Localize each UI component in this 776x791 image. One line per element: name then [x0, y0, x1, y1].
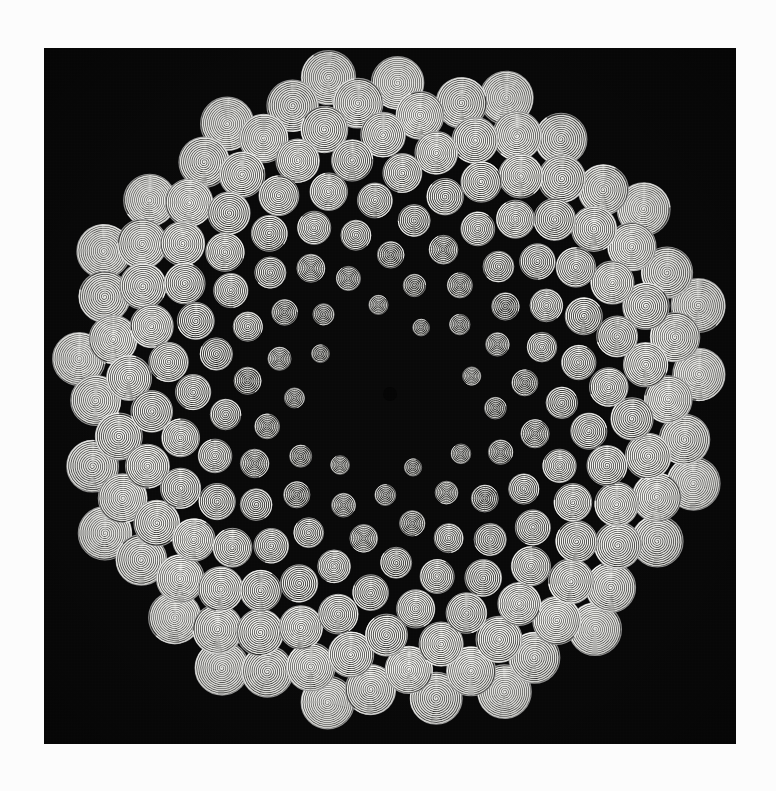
spiral-disc [461, 212, 495, 246]
spiral-disc [556, 520, 598, 562]
spiral-disc [595, 482, 639, 526]
spiral-disc [521, 419, 550, 448]
spiral-disc [280, 565, 318, 603]
spiral-disc [488, 440, 513, 465]
spiral-disc [213, 528, 252, 567]
spiral-disc [310, 173, 348, 211]
spiral-disc [413, 319, 430, 336]
spiral-disc [172, 518, 215, 561]
spiral-disc [530, 289, 563, 322]
spiral-disc [483, 251, 514, 282]
spiral-disc [279, 606, 323, 650]
spiral-disc [213, 273, 248, 308]
spiral-disc [198, 567, 243, 612]
spiral-disc [485, 332, 509, 356]
spiral-disc [427, 178, 464, 215]
spiral-disc [130, 305, 173, 348]
spiral-disc [331, 493, 355, 517]
spiral-disc [259, 176, 299, 216]
spiral-disc [317, 550, 350, 583]
spiral-disc [519, 244, 555, 280]
phyllotaxis-svg [44, 48, 736, 744]
spiral-disc [297, 254, 325, 282]
spiral-disc [632, 473, 681, 522]
spiral-disc [210, 399, 241, 430]
spiral-disc [474, 523, 507, 556]
spiral-disc [446, 593, 487, 634]
center-void [383, 387, 397, 401]
spiral-disc [554, 483, 592, 521]
spiral-disc [420, 559, 454, 593]
spiral-disc [435, 481, 458, 504]
spiral-disc [429, 235, 458, 264]
spiral-disc [591, 261, 635, 305]
spiral-disc [515, 510, 551, 546]
spiral-disc [175, 374, 211, 410]
spiral-disc [596, 316, 637, 357]
spiral-disc [198, 439, 232, 473]
spiral-disc [403, 274, 426, 297]
spiral-disc [548, 559, 593, 604]
spiral-disc [484, 397, 506, 419]
spiral-disc [556, 247, 596, 287]
spiral-disc [380, 547, 412, 579]
spiral-disc [160, 468, 201, 509]
spiral-disc [461, 162, 502, 203]
spiral-disc [284, 388, 304, 408]
spiral-disc [268, 347, 292, 371]
spiral-disc [117, 219, 167, 269]
spiral-disc [234, 367, 262, 395]
spiral-disc [571, 413, 608, 450]
spiral-disc [396, 590, 435, 629]
spiral-disc [233, 312, 263, 342]
spiral-disc [434, 523, 464, 553]
spiral-disc [297, 211, 331, 245]
spiral-disc [251, 215, 287, 251]
spiral-disc [199, 483, 236, 520]
spiral-disc [538, 155, 586, 203]
spiral-disc [452, 117, 498, 163]
spiral-disc [120, 263, 167, 310]
spiral-disc [255, 414, 280, 439]
spiral-disc [498, 582, 541, 625]
spiral-disc [375, 484, 396, 505]
spiral-disc [294, 518, 324, 548]
spiral-disc [383, 153, 422, 192]
artwork-page [0, 0, 776, 791]
spiral-disc [318, 594, 358, 634]
spiral-disc [254, 257, 286, 289]
spiral-disc [512, 370, 538, 396]
spiral-disc [240, 488, 272, 520]
spiral-disc [561, 345, 596, 380]
spiral-disc [254, 528, 289, 563]
spiral-disc [206, 233, 245, 272]
spiral-disc [492, 111, 541, 160]
spiral-disc [449, 314, 470, 335]
spiral-disc [331, 455, 350, 474]
spiral-disc [286, 642, 335, 691]
spiral-disc [369, 295, 389, 315]
spiral-disc [543, 449, 577, 483]
spiral-disc [404, 459, 422, 477]
spiral-disc [527, 332, 557, 362]
spiral-disc [491, 292, 519, 320]
spiral-disc [586, 562, 636, 612]
spiral-disc [164, 263, 205, 304]
spiral-disc [237, 609, 284, 656]
spiral-disc [289, 445, 311, 467]
spiral-disc [565, 297, 603, 335]
spiral-disc [511, 546, 551, 586]
spiral-disc [399, 510, 425, 536]
spiral-disc [149, 342, 189, 382]
spiral-disc [240, 449, 269, 478]
spiral-disc [283, 481, 310, 508]
spiral-disc [200, 338, 233, 371]
spiral-disc [162, 419, 200, 457]
spiral-disc [451, 444, 471, 464]
spiral-disc [534, 198, 576, 240]
spiral-disc [447, 273, 473, 299]
spiral-disc [546, 387, 578, 419]
spiral-disc [350, 524, 378, 552]
spiral-disc [193, 604, 243, 654]
spiral-disc [571, 206, 617, 252]
